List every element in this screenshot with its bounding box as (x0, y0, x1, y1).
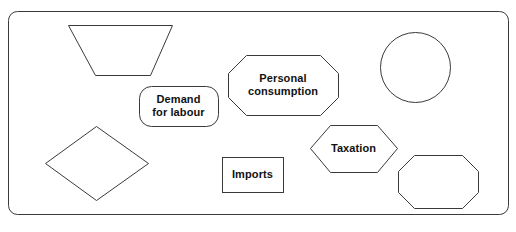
trapezoid[interactable] (69, 26, 173, 76)
circle[interactable] (381, 33, 451, 103)
rectangle-imports[interactable] (223, 158, 284, 193)
octagon-personal-consumption[interactable] (229, 56, 339, 116)
diagram-canvas: Demand for labourPersonal consumptionImp… (0, 0, 516, 232)
octagon-plain[interactable] (399, 156, 479, 209)
outer-frame (9, 12, 509, 215)
hexagon-taxation[interactable] (311, 126, 398, 173)
rounded-rectangle[interactable] (140, 87, 219, 127)
shape-layer (0, 0, 516, 232)
diamond[interactable] (46, 127, 149, 201)
